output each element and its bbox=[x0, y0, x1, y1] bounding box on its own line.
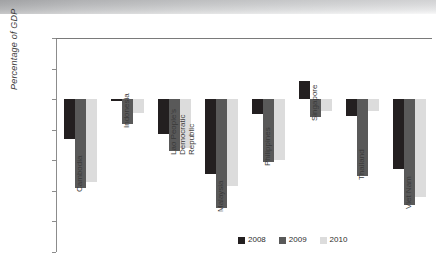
legend-swatch-icon bbox=[238, 237, 245, 244]
legend-item-2009[interactable]: 2009 bbox=[279, 236, 307, 244]
category-label-line: Lao People's bbox=[169, 109, 178, 155]
bar-group bbox=[111, 38, 144, 252]
category-label: Malaysia bbox=[216, 180, 225, 212]
bar-thailand-2010 bbox=[368, 99, 379, 111]
chart-figure: Percentage of GDP 420-2-4-6-8-10 Cambodi… bbox=[0, 0, 436, 262]
category-label-line: Philippines bbox=[263, 127, 272, 166]
category-label-line: Thailand bbox=[357, 149, 366, 180]
category-label-line: Singapore bbox=[310, 85, 319, 121]
legend-item-2008[interactable]: 2008 bbox=[238, 236, 266, 244]
legend-swatch-icon bbox=[320, 237, 327, 244]
bar-indonesia-2008 bbox=[111, 99, 122, 101]
y-tick bbox=[52, 160, 56, 161]
bar-cambodia-2010 bbox=[86, 99, 97, 182]
legend-item-2010[interactable]: 2010 bbox=[320, 236, 348, 244]
bar-viet-nam-2010 bbox=[415, 99, 426, 197]
y-axis-title: Percentage of GDP bbox=[9, 9, 19, 90]
category-label: Indonesia bbox=[122, 93, 131, 128]
category-label-line: Malaysia bbox=[216, 180, 225, 212]
bar-thailand-2008 bbox=[346, 99, 357, 116]
category-label: Viet Nam bbox=[404, 176, 413, 209]
bar-group bbox=[393, 38, 426, 252]
category-label-line: Cambodia bbox=[75, 155, 84, 191]
bar-group bbox=[64, 38, 97, 252]
category-label: Philippines bbox=[263, 127, 272, 166]
category-label-line: Indonesia bbox=[122, 93, 131, 128]
bar-philippines-2008 bbox=[252, 99, 263, 114]
chart-legend: 200820092010 bbox=[238, 236, 347, 244]
category-label-line: Viet Nam bbox=[404, 176, 413, 209]
y-axis-line bbox=[56, 38, 57, 252]
category-label-line: Democratic bbox=[178, 109, 187, 155]
plot-area: 420-2-4-6-8-10 CambodiaIndonesiaLao Peop… bbox=[56, 38, 432, 252]
y-tick bbox=[52, 191, 56, 192]
bar-singapore-2010 bbox=[321, 99, 332, 111]
y-tick bbox=[52, 130, 56, 131]
bar-indonesia-2010 bbox=[133, 99, 144, 113]
category-label: Cambodia bbox=[75, 155, 84, 191]
bar-lao-people-s-democratic-republic-2008 bbox=[158, 99, 169, 134]
y-tick bbox=[52, 252, 56, 253]
bar-group bbox=[299, 38, 332, 252]
y-tick bbox=[52, 221, 56, 222]
y-tick bbox=[52, 69, 56, 70]
legend-label: 2009 bbox=[289, 236, 307, 244]
bar-group bbox=[346, 38, 379, 252]
bar-philippines-2010 bbox=[274, 99, 285, 160]
category-label: Thailand bbox=[357, 149, 366, 180]
bar-malaysia-2008 bbox=[205, 99, 216, 174]
legend-label: 2008 bbox=[248, 236, 266, 244]
category-label-line: Republic bbox=[187, 109, 196, 155]
bar-viet-nam-2008 bbox=[393, 99, 404, 169]
legend-swatch-icon bbox=[279, 237, 286, 244]
y-tick bbox=[52, 38, 56, 39]
category-label: Singapore bbox=[310, 85, 319, 121]
legend-label: 2010 bbox=[330, 236, 348, 244]
bar-malaysia-2010 bbox=[227, 99, 238, 186]
bar-singapore-2008 bbox=[299, 81, 310, 99]
y-tick bbox=[52, 99, 56, 100]
bar-group bbox=[205, 38, 238, 252]
category-label: Lao People'sDemocraticRepublic bbox=[169, 109, 196, 155]
bar-cambodia-2008 bbox=[64, 99, 75, 139]
